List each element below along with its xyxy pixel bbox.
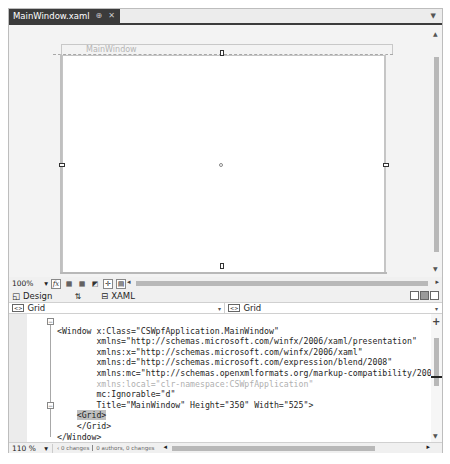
resize-handle-right[interactable] <box>383 163 389 167</box>
editor-zoom-select[interactable]: 110 %▾ <box>9 444 53 453</box>
xaml-editor-window: MainWindow.xaml ⊕ ✕ ▼ MainWindow ▲ ▼ 100… <box>8 8 443 453</box>
navigation-bar: <> Grid ▾ <> Grid ▾ <box>9 302 442 314</box>
scroll-thumb[interactable] <box>434 338 439 386</box>
code-line: xmlns:x="http://schemas.microsoft.com/wi… <box>57 347 442 358</box>
codelens-changes[interactable]: ‹ 0 changes 0 authors, 0 changes <box>53 445 158 451</box>
changes-indicator[interactable]: ‹ 0 changes <box>57 445 89 451</box>
horizontal-split-icon[interactable] <box>420 291 429 300</box>
tab-design-label: Design <box>23 291 52 301</box>
code-line: mc:Ignorable="d" <box>57 389 442 400</box>
resize-handle-bottom[interactable] <box>220 263 224 269</box>
tab-xaml[interactable]: ⊟ XAML <box>101 291 135 301</box>
element-icon: <> <box>12 304 24 312</box>
editor-status-bar: 110 %▾ ‹ 0 changes 0 authors, 0 changes … <box>9 442 442 453</box>
editor-gutter <box>9 314 27 442</box>
code-line: xmlns:mc="http://schemas.openxmlformats.… <box>57 368 442 379</box>
code-line: xmlns:d="http://schemas.microsoft.com/ex… <box>57 357 442 368</box>
scroll-left-icon[interactable]: ◂ <box>127 278 131 286</box>
scroll-down-icon[interactable]: ▼ <box>433 432 438 439</box>
pane-layout-buttons <box>410 291 439 300</box>
scroll-thumb[interactable] <box>434 57 439 252</box>
collapse-grid-icon[interactable]: − <box>47 402 54 409</box>
editor-vertical-scrollbar[interactable]: + ▼ <box>431 314 442 442</box>
caret-position-marker <box>431 376 442 378</box>
scroll-right-icon[interactable]: ▸ <box>435 278 439 286</box>
designer-zoom-select[interactable]: 100%▾ <box>12 279 48 288</box>
window-title: MainWindow <box>86 45 137 54</box>
tab-mainwindow-xaml[interactable]: MainWindow.xaml ⊕ ✕ <box>9 9 120 25</box>
close-icon[interactable]: ✕ <box>108 11 115 25</box>
snap-lines-icon[interactable]: ✛ <box>103 279 113 289</box>
resize-handle-top[interactable] <box>220 50 224 56</box>
code-line: <Window x:Class="CSWpfApplication.MainWi… <box>57 326 442 337</box>
split-view-bar: ◱ Design ⇅ ⊟ XAML <box>9 290 442 302</box>
designer-toolbar: 100%▾ fx ▦ ▦ ◩ ✛ ▤ ◂ ▸ <box>9 277 442 290</box>
center-point-icon <box>219 163 223 167</box>
element-icon: <> <box>228 304 240 312</box>
vertical-split-icon[interactable] <box>410 291 419 300</box>
xaml-icon: ⊟ <box>101 291 108 301</box>
designer-vertical-scrollbar[interactable]: ▲ ▼ <box>431 27 442 277</box>
element-member-value: Grid <box>243 303 261 313</box>
scroll-right-icon[interactable]: ▸ <box>426 443 430 451</box>
scroll-down-icon[interactable]: ▼ <box>433 265 438 272</box>
code-line: <Grid> <box>57 410 442 421</box>
chevron-down-icon: ▾ <box>44 444 48 453</box>
element-member-select[interactable]: <> Grid ▾ <box>225 303 441 313</box>
resize-handle-left[interactable] <box>59 163 65 167</box>
window-content-area[interactable] <box>62 55 385 273</box>
editor-horizontal-scrollbar[interactable]: ◂ ▸ <box>172 445 414 452</box>
tab-list-dropdown-icon[interactable]: ▼ <box>431 12 436 20</box>
document-tab-strip: MainWindow.xaml ⊕ ✕ ▼ <box>9 9 442 25</box>
bottom-border-rail <box>60 272 387 274</box>
snap-grid-icon[interactable]: ▦ <box>77 279 87 289</box>
outline-guide <box>50 322 51 437</box>
grid-icon[interactable]: ▦ <box>64 279 74 289</box>
tab-xaml-label: XAML <box>111 291 135 301</box>
code-line: Title="MainWindow" Height="350" Width="5… <box>57 400 442 411</box>
chevron-down-icon: ▾ <box>44 279 48 288</box>
swap-panes-icon[interactable]: ⇅ <box>74 292 81 301</box>
scroll-up-icon[interactable]: ▲ <box>433 30 438 37</box>
artboard-bg-icon[interactable]: ◩ <box>90 279 100 289</box>
collapse-window-icon[interactable]: − <box>47 318 54 325</box>
code-line: xmlns="http://schemas.microsoft.com/winf… <box>57 336 442 347</box>
collapse-pane-icon[interactable] <box>430 291 439 300</box>
element-type-select[interactable]: <> Grid ▾ <box>9 303 225 313</box>
zoom-value: 100% <box>12 279 33 288</box>
fx-icon[interactable]: fx <box>51 279 61 289</box>
code-line: xmlns:local="clr-namespace:CSWpfApplicat… <box>57 379 442 390</box>
effects-icon[interactable]: ▤ <box>116 279 126 289</box>
design-icon: ◱ <box>12 291 20 301</box>
pin-icon[interactable]: ⊕ <box>96 11 103 25</box>
tab-design[interactable]: ◱ Design <box>12 291 52 301</box>
scroll-thumb[interactable] <box>172 446 375 451</box>
chevron-down-icon: ▾ <box>218 305 221 312</box>
design-surface[interactable]: MainWindow <box>9 27 431 277</box>
code-line: </Window> <box>57 432 442 443</box>
xaml-code-editor[interactable]: − − <Window x:Class="CSWpfApplication.Ma… <box>9 314 431 442</box>
tab-title: MainWindow.xaml <box>13 11 90 25</box>
window-title-bar: MainWindow <box>61 44 393 54</box>
authors-indicator[interactable]: 0 authors, 0 changes <box>96 445 154 451</box>
code-line: </Grid> <box>57 421 442 432</box>
scroll-thumb[interactable] <box>136 281 428 286</box>
split-editor-icon[interactable]: + <box>432 316 440 327</box>
scroll-left-icon[interactable]: ◂ <box>163 443 167 451</box>
chevron-down-icon: ▾ <box>435 305 438 312</box>
element-type-value: Grid <box>27 303 45 313</box>
zoom-value: 110 % <box>12 444 36 453</box>
designer-horizontal-scrollbar[interactable]: ◂ ▸ <box>136 280 428 287</box>
